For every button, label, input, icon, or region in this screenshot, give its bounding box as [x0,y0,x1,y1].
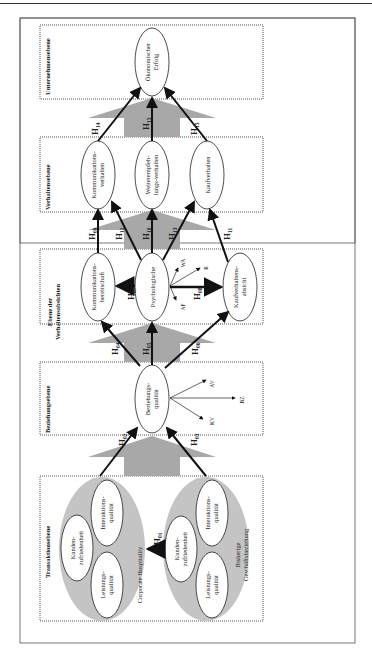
svg-text:qualität: qualität [212,503,219,523]
node-kommunikationsverhalten: Kommunikations- verhalten [81,141,115,209]
level-label-intention-1: Ebene der [46,298,53,326]
level-label-company: Unternehmensebene [44,38,51,95]
svg-text:zufriedenheit: zufriedenheit [181,532,188,566]
hyp-label-h15-right: H15 [189,122,200,135]
node-ch-kundenzufriedenheit: Kunden- zufriedenheit [61,515,93,581]
hyp-label-h11: H11 [222,228,233,240]
svg-text:Leistungs-: Leistungs- [204,571,211,598]
svg-text:absicht: absicht [240,278,247,297]
hyp-label-h04: H04 [110,342,121,355]
node-gb-interaktionsqualitaet: Interaktions- qualität [196,480,228,546]
svg-text:qualität: qualität [212,575,219,595]
dimension-r: R [203,266,209,270]
hyp-label-h01: H01 [152,532,163,545]
level-label-behavior: Verhaltensebene [44,164,51,210]
svg-text:Kunden-: Kunden- [69,537,76,560]
hyp-label-h14: H14 [90,122,101,135]
relationship-dimensions [170,380,235,419]
hyp-label-h09: H09 [87,227,98,240]
svg-text:Kommunikations-: Kommunikations- [90,151,97,198]
dimension-wa: WA [180,259,186,268]
svg-text:verhalten: verhalten [98,162,105,187]
node-kaufverhaltensabsicht: Kaufverhaltens- absicht [223,253,257,321]
svg-text:Psychologische: Psychologische [149,267,156,308]
node-ch-interaktionsqualitaet: Interaktions- qualität [91,480,123,546]
svg-text:Erfolg: Erfolg [152,53,159,70]
dimension-bz: BZ [239,396,245,404]
node-weiterempfehlungsverhalten: Weiterempfeh- lungs-verhalten [135,141,169,209]
svg-text:Kommunikations-: Kommunikations- [90,263,97,310]
svg-text:lungs-verhalten: lungs-verhalten [152,154,159,195]
svg-text:qualität: qualität [107,575,114,595]
node-kaufverhalten: Kaufverhalten [190,141,224,209]
svg-text:Interaktions-: Interaktions- [99,496,106,529]
hyp-label-h08: H08 [192,287,203,300]
svg-text:qualität: qualität [152,389,159,409]
svg-text:qualität: qualität [107,503,114,523]
node-kommunikationsbereitschaft: Kommunikations- bereitschaft [81,253,115,321]
node-gb-kundenzufriedenheit: Kunden- zufriedenheit [165,516,197,582]
level-label-intention-2: Verhaltensabsichten [54,284,61,340]
node-oekonomischer-erfolg: Ökonomischer Erfolg [135,28,169,96]
svg-text:bereitschaft: bereitschaft [98,272,105,303]
node-psychologische: Psychologische [135,253,169,321]
svg-text:zufriedenheit: zufriedenheit [77,531,84,565]
level-label-transaction: Transaktionsebene [44,526,51,578]
research-model-diagram: Unternehmensebene Verhaltensebene Ebene … [0,0,372,660]
group-label-existing-business-2: Geschäftsbeziehung [242,528,249,581]
dimension-kv: KV [209,417,215,425]
dimension-af: AF [180,303,186,310]
svg-text:Kaufverhaltens-: Kaufverhaltens- [232,266,239,308]
svg-text:Weiterempfeh-: Weiterempfeh- [144,156,151,195]
node-gb-leistungsqualitaet: Leistungs- qualität [196,552,228,618]
outer-frame-top [20,18,355,243]
svg-text:Interaktions-: Interaktions- [204,496,211,529]
svg-text:Beziehungs-: Beziehungs- [144,383,151,416]
svg-text:Ökonomischer: Ökonomischer [144,42,151,81]
svg-text:Leistungs-: Leistungs- [99,571,106,598]
svg-text:Kaufverhalten: Kaufverhalten [204,156,211,194]
svg-text:Kunden-: Kunden- [173,538,180,561]
dimension-av: AV [209,380,215,387]
hyp-label-h07: H07 [126,287,137,300]
node-ch-leistungsqualitaet: Leistungs- qualität [91,552,123,618]
group-label-existing-business-1: Bisherige [234,542,241,567]
level-label-relationship: Beziehungsebene [44,386,51,433]
node-beziehungsqualitaet: Beziehungs- qualität [135,365,169,433]
group-label-corporate-hospitality: Corporate Hospitality [136,546,143,603]
